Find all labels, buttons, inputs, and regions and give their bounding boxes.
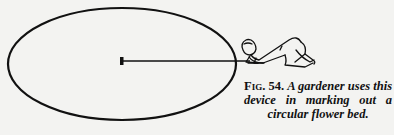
center-peg-icon <box>120 57 124 65</box>
kneeling-gardener-icon <box>242 38 315 67</box>
figure-label: Fig. 54. <box>244 79 284 93</box>
caption-line-2: device in marking out a <box>244 93 392 107</box>
caption-line-3: circular flower bed. <box>244 107 392 121</box>
caption-line-1: Fig. 54. A gardener uses this <box>244 79 392 93</box>
figure-caption: Fig. 54. A gardener uses this device in … <box>244 79 392 121</box>
caption-text-1: A gardener uses this <box>287 79 392 93</box>
